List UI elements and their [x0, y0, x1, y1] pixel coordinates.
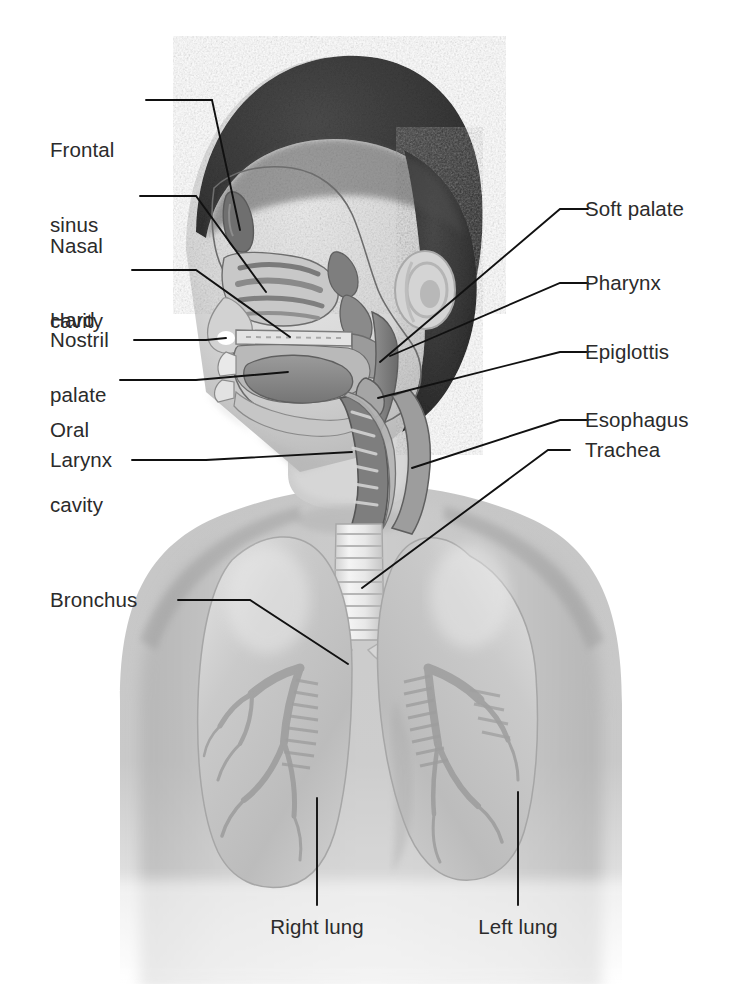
leader-esophagus: [412, 420, 588, 468]
label-epiglottis: Epiglottis: [585, 339, 669, 364]
label-oral-cavity-line2: cavity: [50, 492, 103, 517]
left-lung-highlight: [430, 544, 510, 648]
label-nasal-cavity-line1: Nasal: [50, 233, 103, 258]
label-larynx: Larynx: [50, 447, 112, 472]
label-left-lung: Left lung: [425, 914, 611, 939]
label-frontal-sinus-line1: Frontal: [50, 137, 115, 162]
label-pharynx: Pharynx: [585, 270, 661, 295]
label-nostril: Nostril: [50, 327, 109, 352]
label-bronchus: Bronchus: [50, 587, 137, 612]
label-soft-palate: Soft palate: [585, 196, 684, 221]
respiratory-anatomy-figure: Frontal sinus Nasal cavity Hard palate N…: [0, 0, 737, 984]
label-right-lung: Right lung: [217, 914, 417, 939]
label-esophagus: Esophagus: [585, 407, 688, 432]
hard-palate: [236, 330, 352, 346]
label-trachea: Trachea: [585, 437, 660, 462]
label-oral-cavity-line1: Oral: [50, 417, 103, 442]
ear: [395, 251, 455, 329]
